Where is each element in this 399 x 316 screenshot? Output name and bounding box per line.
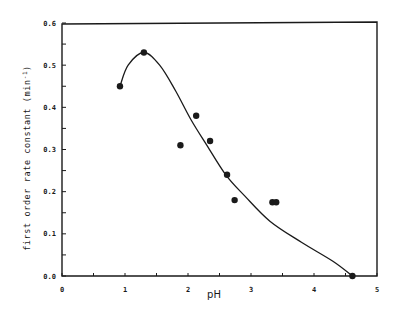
x-tick-label: 2 bbox=[186, 286, 190, 294]
plot-border bbox=[62, 22, 377, 276]
y-tick-label: 0.4 bbox=[43, 104, 56, 112]
x-tick-label: 4 bbox=[312, 286, 316, 294]
y-axis-label: first order rate constant (min-1) bbox=[21, 65, 32, 251]
data-point bbox=[231, 197, 237, 203]
data-points bbox=[117, 49, 356, 279]
data-point bbox=[193, 113, 199, 119]
x-axis-label: pH bbox=[207, 289, 221, 300]
data-point bbox=[177, 142, 183, 148]
x-tick-label: 5 bbox=[375, 286, 379, 294]
data-point bbox=[273, 199, 279, 205]
y-tick-label: 0.2 bbox=[43, 188, 56, 196]
data-point bbox=[349, 273, 355, 279]
data-point bbox=[117, 83, 123, 89]
y-tick-label: 0.0 bbox=[43, 273, 56, 281]
y-tick-label: 0.5 bbox=[43, 62, 56, 70]
x-tick-label: 0 bbox=[60, 286, 64, 294]
data-point bbox=[207, 138, 213, 144]
y-tick-label: 0.6 bbox=[43, 20, 56, 28]
x-tick-label: 1 bbox=[123, 286, 127, 294]
fitted-curve bbox=[120, 53, 352, 276]
plot-frame bbox=[62, 22, 377, 276]
x-tick-label: 3 bbox=[249, 286, 253, 294]
data-point bbox=[141, 49, 147, 55]
data-point bbox=[224, 172, 230, 178]
y-tick-label: 0.3 bbox=[43, 146, 56, 154]
rate-constant-vs-ph-chart: 0.00.10.20.30.40.50.6 012345 pH first or… bbox=[0, 0, 399, 316]
y-tick-label: 0.1 bbox=[43, 230, 56, 238]
